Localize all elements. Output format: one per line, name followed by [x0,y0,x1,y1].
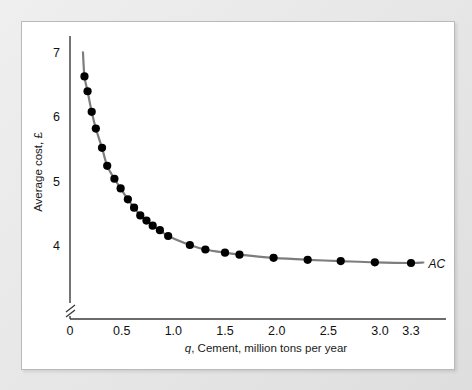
axes-group [66,36,446,319]
data-point [92,124,100,132]
data-point [88,108,96,116]
data-point [149,222,157,230]
data-point [186,241,194,249]
x-tick-label: 2.0 [268,324,285,338]
data-point [156,226,164,234]
x-tick-label: 1.0 [165,324,182,338]
ac-curve-line [83,52,423,263]
y-axis-break-icon [66,305,75,317]
ac-data-points [80,72,415,267]
data-point [269,254,277,262]
y-tick-label: 7 [53,46,60,60]
y-tick-label: 4 [53,239,60,253]
average-cost-chart: 00.51.01.52.02.53.03.3 4567 AC Average c… [22,22,454,369]
data-point [304,256,312,264]
data-point [371,258,379,266]
data-point [164,232,172,240]
data-point [80,72,88,80]
data-point [103,162,111,170]
x-tick-label: 0 [67,324,74,338]
data-point [407,259,415,267]
y-tick-labels: 4567 [53,46,60,253]
data-point [201,245,209,253]
data-point [83,87,91,95]
data-point [235,251,243,259]
data-point [98,144,106,152]
series-group [80,52,423,267]
data-point [221,249,229,257]
x-tick-label: 1.5 [216,324,233,338]
chart-panel: 00.51.01.52.02.53.03.3 4567 AC Average c… [21,21,455,370]
x-axis-title: q, Cement, million tons per year [185,342,348,354]
y-tick-label: 5 [53,175,60,189]
x-tick-label: 0.5 [113,324,130,338]
data-point [117,184,125,192]
data-point [337,257,345,265]
y-axis-title: Average cost, £ [32,132,44,212]
series-label-ac: AC [428,257,446,271]
x-tick-labels: 00.51.01.52.02.53.03.3 [67,324,420,338]
x-tick-label: 3.0 [371,324,388,338]
figure-root: 00.51.01.52.02.53.03.3 4567 AC Average c… [0,0,472,390]
x-tick-label: 2.5 [320,324,337,338]
data-point [130,204,138,212]
data-point [124,195,132,203]
x-tick-label: 3.3 [402,324,419,338]
y-tick-label: 6 [53,110,60,124]
x-axis-title-rest: , Cement, million tons per year [191,342,347,354]
data-point [110,175,118,183]
